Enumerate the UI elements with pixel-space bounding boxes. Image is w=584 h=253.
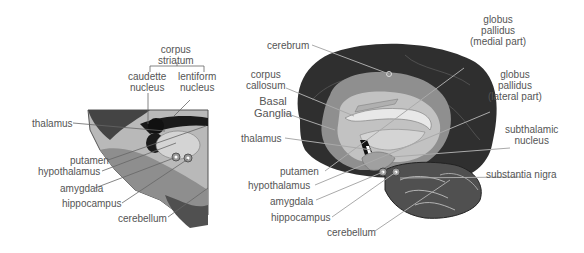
label-hippocampus-left: hippocampus <box>62 198 121 209</box>
label-line: (medial part) <box>470 36 526 47</box>
label-amygdala-left: amygdala <box>60 183 103 194</box>
label-line: nucleus <box>505 135 558 146</box>
label-line: lentiform <box>178 71 216 82</box>
label-line: striatum <box>158 55 194 66</box>
label-cerebellum-right: cerebellum <box>327 227 376 238</box>
label-globus-pallidus-lateral: globus pallidus (lateral part) <box>488 69 542 102</box>
label-line: caudette <box>128 71 166 82</box>
label-subthalamic-nucleus: subthalamic nucleus <box>505 124 558 146</box>
label-caudate-nucleus: caudette nucleus <box>128 71 166 93</box>
label-line: Ganglia <box>254 107 292 119</box>
label-line: pallidus <box>488 80 542 91</box>
label-line: Basal <box>254 95 292 107</box>
label-line: (lateral part) <box>488 91 542 102</box>
label-line: pallidus <box>470 25 526 36</box>
label-line: nucleus <box>178 82 216 93</box>
label-line: corpus <box>158 44 194 55</box>
label-thalamus-left: thalamus <box>32 118 73 129</box>
label-cerebrum: cerebrum <box>267 40 309 51</box>
label-line: nucleus <box>128 82 166 93</box>
label-basal-ganglia: Basal Ganglia <box>254 95 292 119</box>
label-hypothalamus-left: hypothalamus <box>38 166 100 177</box>
label-cerebellum-left: cerebellum <box>118 213 167 224</box>
label-putamen-right: putamen <box>280 166 319 177</box>
label-line: globus <box>470 14 526 25</box>
left-brain-section <box>88 110 208 228</box>
label-line: corpus <box>246 69 285 80</box>
label-lentiform-nucleus: lentiform nucleus <box>178 71 216 93</box>
label-line: globus <box>488 69 542 80</box>
label-line: callosum <box>246 80 285 91</box>
basal-ganglia-diagram: corpus striatum caudette nucleus lentifo… <box>0 0 584 253</box>
label-corpus-callosum: corpus callosum <box>246 69 285 91</box>
label-corpus-striatum: corpus striatum <box>158 44 194 66</box>
label-line: subthalamic <box>505 124 558 135</box>
label-amygdala-right: amygdala <box>270 196 313 207</box>
label-hypothalamus-right: hypothalamus <box>248 180 310 191</box>
label-thalamus-right: thalamus <box>241 133 282 144</box>
label-putamen-left: putamen <box>70 155 109 166</box>
label-substantia-nigra: substantia nigra <box>486 169 557 180</box>
label-globus-pallidus-medial: globus pallidus (medial part) <box>470 14 526 47</box>
label-hippocampus-right: hippocampus <box>271 212 330 223</box>
right-brain <box>298 44 497 219</box>
